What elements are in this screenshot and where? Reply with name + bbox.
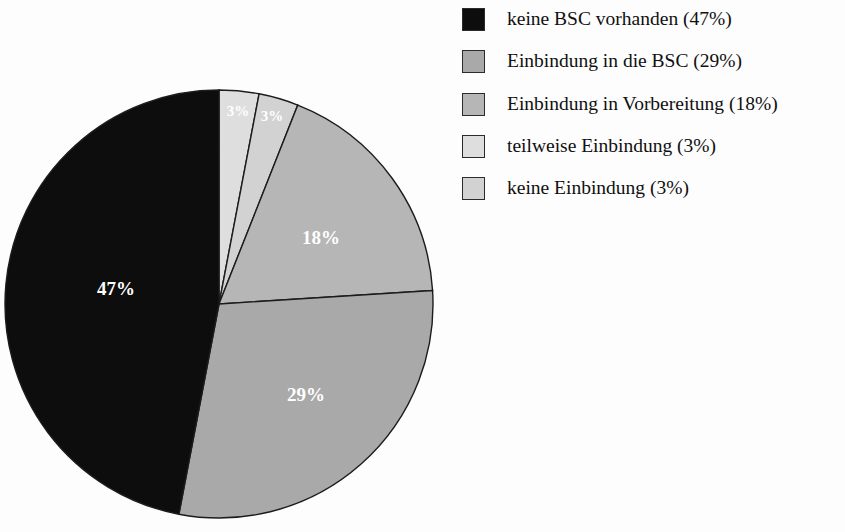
legend-item-einbindung-in-die-bsc[interactable]: Einbindung in die BSC (29%) [462,48,742,74]
legend-item-label: Einbindung in Vorbereitung (18%) [507,94,778,114]
legend-swatch-icon [462,93,485,116]
pie-slice[interactable] [5,90,219,514]
pie-chart-svg: 47%29%18%3%3% [0,0,450,532]
legend-item-label: teilweise Einbindung (3%) [507,136,716,156]
pie-slice-value-label: 3% [227,103,250,119]
legend-item-label: keine BSC vorhanden (47%) [507,9,732,29]
pie-slices-group [5,90,433,518]
legend-item-einbindung-in-vorbereitung[interactable]: Einbindung in Vorbereitung (18%) [462,91,778,117]
legend-swatch-icon [462,177,485,200]
legend-item-label: keine Einbindung (3%) [507,178,689,198]
legend-swatch-icon [462,135,485,158]
legend-swatch-icon [462,50,485,73]
legend-item-teilweise-einbindung[interactable]: teilweise Einbindung (3%) [462,133,716,159]
pie-chart-plot-area: 47%29%18%3%3% [0,0,450,532]
legend-item-keine-bsc-vorhanden[interactable]: keine BSC vorhanden (47%) [462,6,732,32]
pie-slice-value-label: 18% [302,227,340,248]
pie-slice-value-label: 47% [97,278,135,299]
legend-swatch-icon [462,8,485,31]
legend-item-label: Einbindung in die BSC (29%) [507,51,742,71]
pie-slice-value-label: 3% [261,108,284,124]
legend-item-keine-einbindung[interactable]: keine Einbindung (3%) [462,175,689,201]
pie-slice-value-label: 29% [287,384,325,405]
pie-chart-figure: 47%29%18%3%3% keine BSC vorhanden (47%) … [0,0,845,532]
chart-legend: keine BSC vorhanden (47%) Einbindung in … [462,0,845,215]
